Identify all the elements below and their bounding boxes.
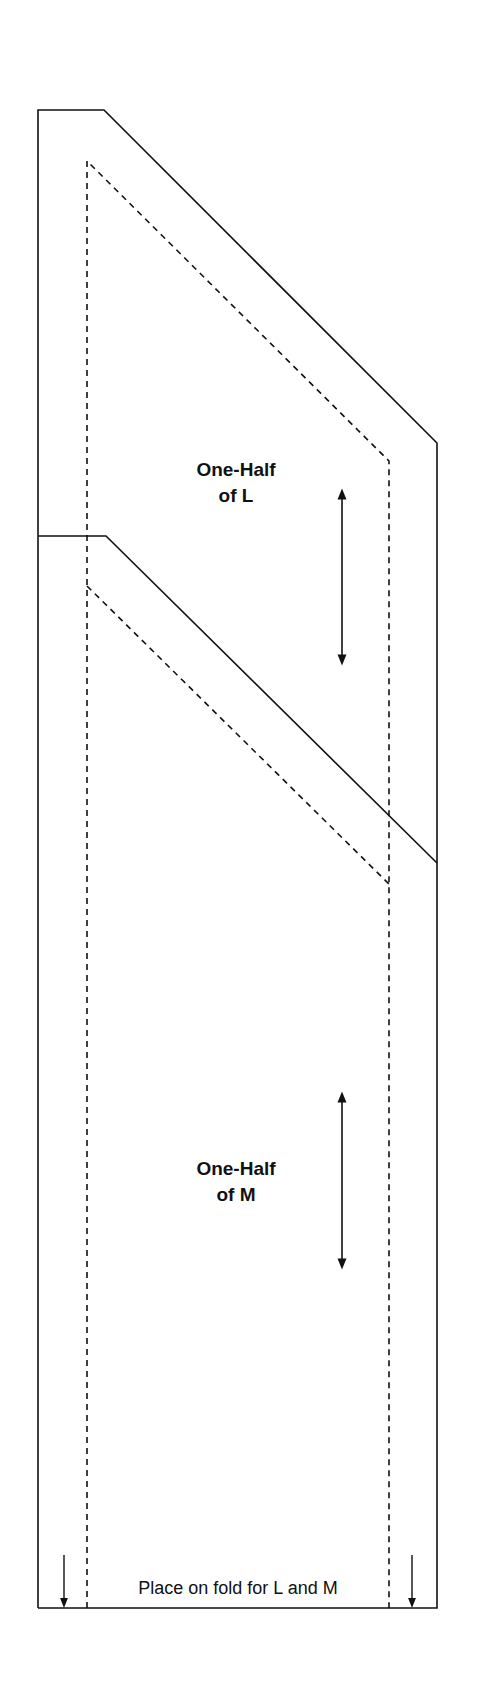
fold-label: Place on fold for L and M bbox=[87, 1578, 389, 1598]
piece-title-m-line2: of M bbox=[166, 1182, 306, 1208]
cutting-line-m-top bbox=[38, 536, 437, 863]
seam-line-l bbox=[87, 161, 389, 1608]
piece-title-l-line1: One-Half bbox=[166, 457, 306, 483]
piece-title-l: One-Half of L bbox=[166, 457, 306, 509]
piece-title-m: One-Half of M bbox=[166, 1156, 306, 1208]
piece-title-m-line1: One-Half bbox=[166, 1156, 306, 1182]
seam-line-m bbox=[87, 586, 389, 884]
pattern-drawing bbox=[0, 0, 477, 1687]
cutting-line-l bbox=[38, 110, 437, 1608]
piece-title-l-line2: of L bbox=[166, 483, 306, 509]
